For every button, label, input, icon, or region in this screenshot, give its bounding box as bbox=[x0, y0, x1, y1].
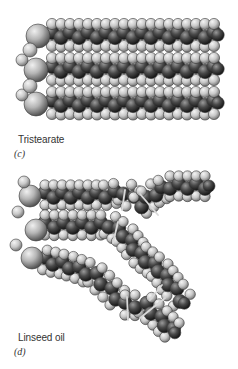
glycerol-oxygen-atom bbox=[25, 219, 47, 241]
terminal-methyl bbox=[212, 63, 224, 75]
hydrogen-atom bbox=[118, 216, 128, 226]
hydrogen-atom bbox=[85, 257, 95, 267]
hydrogen-atom bbox=[108, 178, 118, 188]
terminal-methyl bbox=[178, 297, 190, 309]
hydrogen-atom bbox=[130, 290, 140, 300]
hydrogen-atom bbox=[208, 18, 219, 29]
hydrogen-atom bbox=[98, 180, 108, 190]
hydrogen-atom bbox=[178, 279, 188, 289]
hydrogen-atom bbox=[12, 206, 24, 218]
linseed-oil-model bbox=[10, 171, 215, 342]
terminal-methyl bbox=[203, 180, 215, 192]
hydrogen-atom bbox=[49, 210, 59, 220]
hydrogen-atom bbox=[208, 52, 219, 63]
glycerol-oxygen-atom bbox=[21, 247, 43, 269]
hydrogen-atom bbox=[58, 210, 68, 220]
terminal-methyl bbox=[212, 29, 224, 41]
hydrogen-atom bbox=[208, 86, 219, 97]
hydrogen-atom bbox=[86, 210, 96, 220]
terminal-methyl bbox=[169, 327, 181, 339]
hydrogen-atom bbox=[68, 210, 78, 220]
hydrogen-atom bbox=[153, 175, 163, 185]
glycerol-oxygen-atom bbox=[19, 185, 41, 207]
tristearate-model bbox=[16, 18, 224, 120]
hydrogen-atom bbox=[200, 171, 210, 181]
linseed-oil-caption: Linseed oil bbox=[18, 332, 65, 343]
hydrogen-atom bbox=[120, 290, 130, 300]
hydrogen-atom bbox=[23, 43, 37, 57]
hydrogen-atom bbox=[154, 252, 164, 262]
molecular-models-figure bbox=[0, 0, 238, 369]
hydrogen-atom bbox=[77, 210, 87, 220]
hydrogen-atom bbox=[23, 79, 37, 93]
tristearate-caption: Tristearate bbox=[18, 134, 64, 145]
hydrogen-atom bbox=[59, 249, 69, 259]
hydrogen-atom bbox=[96, 210, 106, 220]
hydrogen-atom bbox=[40, 210, 50, 220]
hydrogen-atom bbox=[10, 239, 22, 251]
double-bond-marker bbox=[127, 297, 128, 320]
terminal-methyl bbox=[212, 97, 224, 109]
hydrogen-atom bbox=[18, 176, 30, 188]
panel-letter-d: (d) bbox=[14, 346, 26, 357]
panel-letter-c: (c) bbox=[14, 148, 25, 159]
